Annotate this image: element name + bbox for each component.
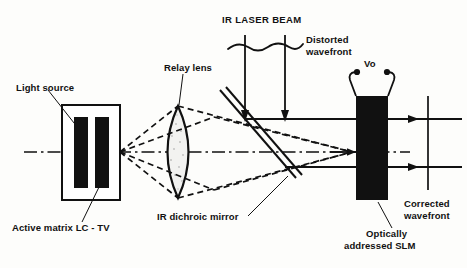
label-ir-laser-beam: IR LASER BEAM: [222, 14, 302, 26]
label-vo: Vo: [364, 58, 376, 70]
label-corrected-wavefront-line2: wavefront: [404, 210, 450, 222]
corrected-output-rays: [388, 119, 462, 167]
vo-electrode-circuit: [350, 69, 395, 96]
label-slm-line2: addressed SLM: [344, 240, 416, 252]
label-light-source: Light source: [16, 82, 74, 94]
ir-laser-arrowheads-down: [241, 110, 289, 122]
figure-canvas: Light source Active matrix LC - TV Relay…: [0, 0, 467, 268]
label-relay-lens: Relay lens: [164, 62, 212, 74]
relay-lens-element: [168, 106, 189, 198]
ir-beam-to-slm: [245, 119, 356, 167]
label-active-matrix-lc-tv: Active matrix LC - TV: [12, 222, 110, 234]
label-distorted-wavefront-line1: Distorted: [306, 34, 349, 46]
ir-dichroic-mirror-element: [220, 87, 302, 178]
corrected-output-arrowheads: [408, 115, 419, 171]
label-ir-dichroic-mirror: IR dichroic mirror: [157, 211, 239, 223]
optically-addressed-slm-element: [356, 96, 388, 200]
distorted-wavefront-curve: [228, 44, 303, 51]
label-corrected-wavefront-line1: Corrected: [404, 198, 450, 210]
label-slm-line1: Optically: [366, 228, 407, 240]
ir-laser-incoming-rays: [245, 35, 285, 118]
label-distorted-wavefront-line2: wavefront: [306, 46, 352, 58]
